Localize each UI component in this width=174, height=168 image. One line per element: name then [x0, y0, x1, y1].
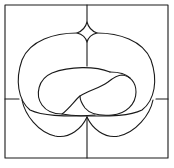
inner-loop-right	[80, 75, 136, 115]
diagram-canvas	[0, 0, 174, 168]
diagram-strokes	[5, 5, 168, 158]
inner-loop-left	[38, 68, 110, 114]
lower-right-lobe	[87, 100, 153, 137]
knot-diagram	[0, 0, 174, 168]
lower-left-lobe	[22, 100, 87, 137]
top-diamond	[77, 22, 97, 42]
